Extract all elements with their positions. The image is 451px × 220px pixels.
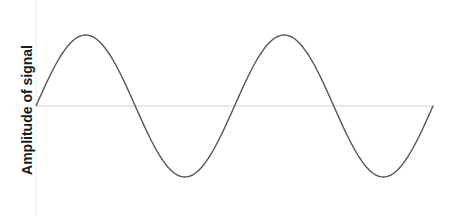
y-axis-label: Amplitude of signal: [19, 45, 35, 175]
sine-wave-chart: [0, 0, 451, 220]
